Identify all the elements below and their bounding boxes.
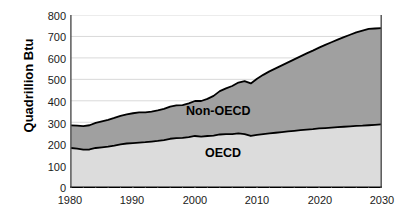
y-tick-label-300: 300 — [26, 119, 66, 129]
chart-figure: Quadrillion Btu 800 700 600 500 400 300 … — [0, 0, 404, 220]
y-tick-label-600: 600 — [26, 54, 66, 64]
y-tick-label-500: 500 — [26, 75, 66, 85]
series-label-oecd: OECD — [205, 146, 241, 160]
y-tick-label-100: 100 — [26, 162, 66, 172]
chart-canvas — [70, 15, 382, 188]
y-tick-label-800: 800 — [26, 11, 66, 21]
y-tick-label-0: 0 — [26, 183, 66, 193]
x-tick-label-2020: 2020 — [295, 194, 345, 206]
plot-area: Non-OECD OECD — [70, 15, 382, 188]
series-label-non-oecd: Non-OECD — [186, 104, 251, 118]
y-tick-label-700: 700 — [26, 32, 66, 42]
y-tick-label-200: 200 — [26, 140, 66, 150]
x-tick-label-2000: 2000 — [170, 194, 220, 206]
x-tick-label-1990: 1990 — [107, 194, 157, 206]
x-tick-label-2030: 2030 — [357, 194, 404, 206]
x-tick-label-2010: 2010 — [232, 194, 282, 206]
x-tick-label-1980: 1980 — [45, 194, 95, 206]
y-tick-label-400: 400 — [26, 97, 66, 107]
